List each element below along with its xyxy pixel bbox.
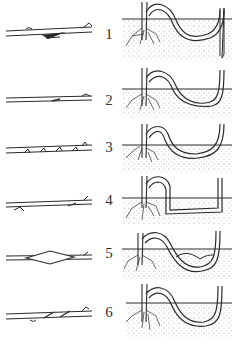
stem-cutting-slight-notch — [4, 86, 100, 116]
method-number-label: 3 — [103, 139, 115, 156]
layered-plant-5 — [118, 225, 234, 287]
row-6: 6 — [0, 282, 237, 345]
layered-plant-2 — [118, 62, 234, 124]
stem-cutting-split-twist — [4, 190, 100, 220]
method-number-label: 5 — [103, 245, 115, 262]
method-number-label: 2 — [103, 92, 115, 109]
row-4: 4 — [0, 172, 237, 225]
row-5: 5 — [0, 225, 237, 282]
stem-cutting-ring-bark-slit — [4, 242, 100, 272]
stem-cutting-tongue-cut — [4, 17, 100, 47]
row-2: 2 — [0, 62, 237, 118]
layered-plant-1 — [118, 0, 234, 62]
method-number-label: 4 — [103, 192, 115, 209]
layered-plant-3 — [118, 118, 234, 180]
layered-plant-6 — [118, 282, 234, 344]
method-number-label: 6 — [103, 304, 115, 321]
row-3: 3 — [0, 118, 237, 172]
stem-cutting-multiple-notches — [4, 134, 100, 164]
stem-cutting-spiral-wound — [4, 300, 100, 330]
method-number-label: 1 — [103, 26, 115, 43]
row-1: 1 — [0, 0, 237, 62]
